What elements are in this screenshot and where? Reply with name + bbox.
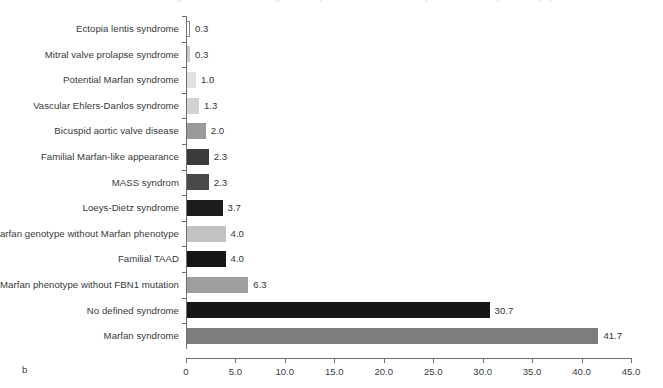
bar	[186, 123, 206, 139]
bar	[186, 302, 490, 318]
category-label: Familial TAAD	[0, 254, 186, 264]
x-axis-tick	[334, 358, 335, 363]
bar-container: 4.0	[186, 246, 244, 272]
x-axis-tick	[483, 358, 484, 363]
category-label: Bicuspid aortic valve disease	[0, 126, 186, 136]
bar-value-label: 6.3	[253, 280, 266, 290]
x-axis-tick-label: 5.0	[229, 366, 242, 377]
category-label: Potential Marfan syndrome	[0, 75, 186, 85]
figure-panel-b: Figure distribution of diagnoses in pati…	[0, 0, 663, 388]
x-axis-tick-label: 10.0	[276, 366, 295, 377]
bar	[186, 98, 199, 114]
category-label: Marfan syndrome	[0, 331, 186, 341]
x-axis-tick	[285, 358, 286, 363]
bar-value-label: 2.3	[214, 178, 227, 188]
bar-row: Vascular Ehlers-Danlos syndrome1.3	[0, 93, 663, 119]
bar-value-label: 30.7	[495, 306, 514, 316]
bar-row: Marfan genotype without Marfan phenotype…	[0, 221, 663, 247]
bar-value-label: 41.7	[603, 331, 622, 341]
x-axis-tick	[433, 358, 434, 363]
x-axis-tick	[235, 358, 236, 363]
bar-value-label: 1.0	[201, 75, 214, 85]
bar-row: Familial Marfan-like appearance2.3	[0, 144, 663, 170]
bar-row: Ectopia lentis syndrome0.3	[0, 16, 663, 42]
y-axis-tick	[182, 170, 187, 171]
y-axis-tick	[182, 67, 187, 68]
x-axis-tick-label: 25.0	[424, 366, 443, 377]
bar-row: Familial TAAD4.0	[0, 246, 663, 272]
x-axis-tick	[532, 358, 533, 363]
bar-row: Loeys-Dietz syndrome3.7	[0, 195, 663, 221]
y-axis-tick	[182, 93, 187, 94]
y-axis-tick	[182, 42, 187, 43]
x-axis-tick-label: 15.0	[325, 366, 344, 377]
bar-value-label: 2.3	[214, 152, 227, 162]
y-axis-tick	[182, 195, 187, 196]
bar-value-label: 1.3	[204, 101, 217, 111]
category-label: Marfan genotype without Marfan phenotype	[0, 229, 186, 239]
bar-row: Mitral valve prolapse syndrome0.3	[0, 42, 663, 68]
bar-value-label: 0.3	[195, 24, 208, 34]
bar-container: 2.0	[186, 118, 224, 144]
y-axis-tick	[182, 16, 187, 17]
x-axis-tick	[186, 358, 187, 363]
category-label: No defined syndrome	[0, 306, 186, 316]
x-axis-tick-label: 45.0	[622, 366, 641, 377]
x-axis-tick-label: 20.0	[374, 366, 393, 377]
panel-letter: b	[22, 364, 27, 375]
category-label: Loeys-Dietz syndrome	[0, 203, 186, 213]
bar	[186, 174, 209, 190]
y-axis-tick	[182, 118, 187, 119]
x-axis-tick-label: 0	[183, 366, 188, 377]
bar-container: 0.3	[186, 42, 208, 68]
bar-rows: Ectopia lentis syndrome0.3Mitral valve p…	[0, 16, 663, 349]
bar-row: MASS syndrom2.3	[0, 170, 663, 196]
bar	[186, 277, 248, 293]
bar	[186, 72, 196, 88]
category-label: Familial Marfan-like appearance	[0, 152, 186, 162]
y-axis-tick	[182, 221, 187, 222]
bar	[186, 226, 226, 242]
x-axis-line	[186, 358, 631, 359]
x-axis-tick	[582, 358, 583, 363]
bar	[186, 328, 598, 344]
bar-value-label: 4.0	[231, 229, 244, 239]
bar-row: Marfan syndrome41.7	[0, 323, 663, 349]
bar-row: Bicuspid aortic valve disease2.0	[0, 118, 663, 144]
category-label: Marfan phenotype without FBN1 mutation	[0, 280, 186, 290]
category-label: Vascular Ehlers-Danlos syndrome	[0, 101, 186, 111]
bar-container: 2.3	[186, 170, 227, 196]
category-label: Mitral valve prolapse syndrome	[0, 50, 186, 60]
bar-row: Potential Marfan syndrome1.0	[0, 67, 663, 93]
bar-container: 41.7	[186, 323, 622, 349]
bar-row: Marfan phenotype without FBN1 mutation6.…	[0, 272, 663, 298]
bar-container: 30.7	[186, 298, 513, 324]
bar-container: 1.0	[186, 67, 214, 93]
x-axis-tick	[631, 358, 632, 363]
bar-value-label: 0.3	[195, 50, 208, 60]
x-axis-tick-label: 40.0	[572, 366, 591, 377]
bar-value-label: 3.7	[228, 203, 241, 213]
y-axis-tick	[182, 298, 187, 299]
x-axis-tick	[384, 358, 385, 363]
bar-container: 1.3	[186, 93, 217, 119]
x-axis-tick-label: 35.0	[523, 366, 542, 377]
bar-container: 4.0	[186, 221, 244, 247]
bar-container: 6.3	[186, 272, 267, 298]
bar	[186, 149, 209, 165]
bar-value-label: 2.0	[211, 126, 224, 136]
y-axis-tick	[182, 272, 187, 273]
bar-container: 0.3	[186, 16, 208, 42]
bar-row: No defined syndrome30.7	[0, 298, 663, 324]
bar-chart: Ectopia lentis syndrome0.3Mitral valve p…	[0, 0, 663, 388]
bar	[186, 251, 226, 267]
bar-container: 3.7	[186, 195, 241, 221]
y-axis-tick	[182, 323, 187, 324]
bar-value-label: 4.0	[231, 254, 244, 264]
category-label: MASS syndrom	[0, 178, 186, 188]
bar-container: 2.3	[186, 144, 227, 170]
y-axis-tick	[182, 144, 187, 145]
y-axis-line	[186, 16, 187, 349]
x-axis-tick-label: 30.0	[473, 366, 492, 377]
y-axis-tick	[182, 246, 187, 247]
